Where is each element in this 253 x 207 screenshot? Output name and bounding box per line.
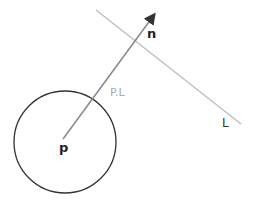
diagram-canvas <box>0 0 253 207</box>
normal-arrow <box>63 15 154 139</box>
label-pl: P.L <box>110 87 125 98</box>
line-l <box>96 10 241 124</box>
label-p: p <box>59 141 68 154</box>
label-l: L <box>222 117 229 129</box>
label-n: n <box>147 27 156 40</box>
